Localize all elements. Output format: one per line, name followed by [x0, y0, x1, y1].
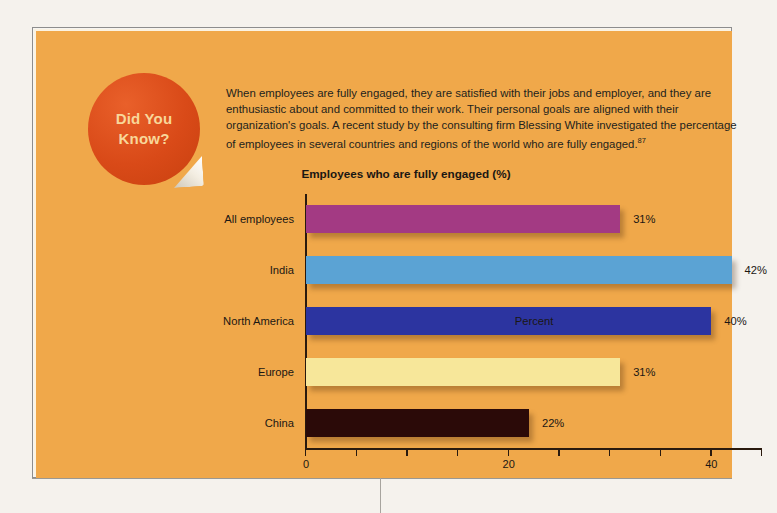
x-tick-20 — [508, 449, 509, 456]
intro-text: When employees are fully engaged, they a… — [226, 87, 737, 150]
bar-value-label: 22% — [542, 417, 564, 429]
bar-value-label: 31% — [633, 213, 655, 225]
x-axis-line — [305, 448, 762, 450]
x-axis-label: Percent — [306, 315, 762, 327]
x-tick-30 — [609, 449, 610, 456]
x-tick-35 — [660, 449, 661, 456]
x-tick-label-40: 40 — [705, 458, 717, 470]
category-label-india: India — [124, 264, 294, 276]
bar-china — [306, 409, 529, 437]
bar-india — [306, 256, 732, 284]
category-label-all-employees: All employees — [124, 213, 294, 225]
bar-value-label: 42% — [745, 264, 767, 276]
badge-line-2: Know? — [119, 129, 170, 149]
page-divider-horizontal — [32, 478, 732, 479]
bar-value-label: 31% — [633, 366, 655, 378]
bar-all-employees — [306, 205, 620, 233]
x-tick-label-20: 20 — [503, 458, 515, 470]
x-tick-40 — [710, 449, 711, 456]
intro-footnote-marker: 87 — [638, 136, 646, 145]
category-label-europe: Europe — [124, 366, 294, 378]
badge-line-1: Did You — [116, 109, 173, 129]
bar-europe — [306, 358, 620, 386]
x-tick-45 — [761, 449, 762, 456]
page-divider-vertical — [380, 478, 381, 513]
x-tick-label-0: 0 — [303, 458, 309, 470]
intro-paragraph: When employees are fully engaged, they a… — [226, 86, 742, 152]
did-you-know-badge: Did You Know? — [88, 73, 200, 185]
x-tick-25 — [558, 449, 559, 456]
category-label-north-america: North America — [124, 315, 294, 327]
badge-label: Did You Know? — [88, 73, 200, 185]
x-tick-10 — [406, 449, 407, 456]
page-canvas: Did You Know? When employees are fully e… — [0, 0, 777, 513]
x-tick-0 — [305, 449, 306, 456]
category-label-china: China — [124, 417, 294, 429]
chart-title: Employees who are fully engaged (%) — [261, 167, 551, 180]
x-tick-15 — [457, 449, 458, 456]
x-tick-5 — [356, 449, 357, 456]
figure-panel: Did You Know? When employees are fully e… — [36, 31, 732, 478]
